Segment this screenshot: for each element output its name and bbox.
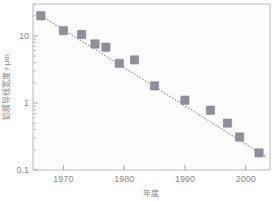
y-axis-tick-labels: 1010.1 <box>16 31 29 175</box>
y-tick-label: 0.1 <box>16 165 29 175</box>
data-point-marker <box>130 56 138 64</box>
y-axis-title: 铝膜导线宽度 / μm <box>1 54 11 120</box>
data-point-marker <box>181 96 189 104</box>
scatter-plot-svg: 1010.1 1970198019902000 年度 铝膜导线宽度 / μm <box>0 0 277 202</box>
data-point-marker <box>255 149 263 157</box>
data-point-marker <box>206 106 214 114</box>
data-point-marker <box>150 82 158 90</box>
x-tick-label: 1980 <box>114 174 134 184</box>
x-axis-title: 年度 <box>143 188 159 198</box>
x-tick-label: 2000 <box>236 174 256 184</box>
x-tick-label: 1970 <box>53 174 73 184</box>
data-point-marker <box>77 30 85 38</box>
x-tick-label: 1990 <box>175 174 195 184</box>
chart-figure: 1010.1 1970198019902000 年度 铝膜导线宽度 / μm <box>0 0 277 202</box>
data-point-marker <box>102 43 110 51</box>
data-point-marker <box>223 119 231 127</box>
y-tick-label: 10 <box>19 31 29 41</box>
x-axis-tick-labels: 1970198019902000 <box>53 174 255 184</box>
data-point-marker <box>115 59 123 67</box>
data-point-marker <box>91 40 99 48</box>
data-point-marker <box>235 133 243 141</box>
data-point-marker <box>59 26 67 34</box>
y-tick-label: 1 <box>24 98 29 108</box>
data-point-marker <box>37 12 45 20</box>
